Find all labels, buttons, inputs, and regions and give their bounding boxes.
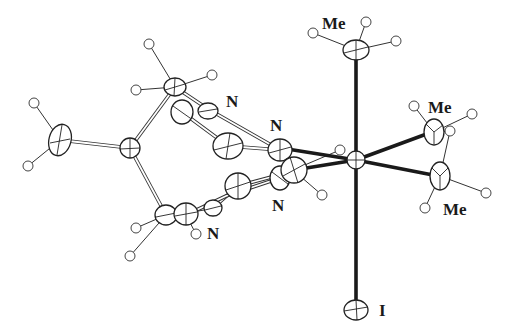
label-iodine: I <box>379 301 386 320</box>
atom-c-upper-ch2 <box>164 78 186 96</box>
atom-n-lower-left <box>204 200 222 216</box>
label-n-lower-right: N <box>272 196 285 215</box>
atom-c-upper-ring <box>171 100 193 124</box>
atom-c-me-top <box>343 40 369 60</box>
atom-n-upper-left <box>198 103 218 119</box>
atom-c-me-right-upper <box>424 119 444 145</box>
atom-labels: Me Me Me N N N N I <box>207 14 467 320</box>
label-me-right-upper: Me <box>428 98 452 117</box>
label-me-top: Me <box>322 14 346 33</box>
label-n-lower-left: N <box>207 224 220 243</box>
atom-metal-center <box>347 151 365 169</box>
atom-iodine <box>344 300 368 320</box>
heavy-atoms <box>45 40 450 320</box>
atom-c-bridgehead <box>120 138 140 158</box>
atom-c-lower-ring <box>174 203 198 225</box>
atom-c-me-right-lower <box>430 162 450 190</box>
atom-c-lower-mid <box>225 173 251 199</box>
hydrogen-atoms <box>23 17 491 261</box>
label-me-right-lower: Me <box>443 200 467 219</box>
ortep-drawing: Me Me Me N N N N I <box>0 0 506 334</box>
atom-c-upper-mid <box>213 133 243 159</box>
atom-n-lower-right <box>281 157 307 183</box>
label-n-upper-left: N <box>226 92 239 111</box>
atom-c-methyl-left <box>45 122 75 159</box>
molecular-structure-diagram: Me Me Me N N N N I <box>0 0 506 334</box>
label-n-upper-right: N <box>270 116 283 135</box>
